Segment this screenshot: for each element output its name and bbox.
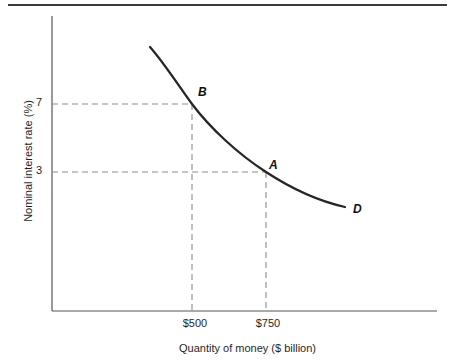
money-demand-figure: 7 3 $500 $750 Quantity of money ($ billi… [0,0,455,364]
demand-curve-d [150,47,345,207]
y-axis-tick-label-3: 3 [36,164,42,176]
chart-canvas [0,0,455,364]
curve-label-d: D [353,202,362,216]
point-label-a: A [269,158,278,172]
point-label-b: B [198,85,207,99]
y-axis-tick-label-7: 7 [36,96,42,108]
x-axis-tick-label-750: $750 [248,317,288,329]
x-axis-tick-label-500: $500 [175,317,215,329]
y-axis-title: Nominal interest rate (%) [22,86,34,236]
x-axis-title: Quantity of money ($ billion) [125,342,370,354]
